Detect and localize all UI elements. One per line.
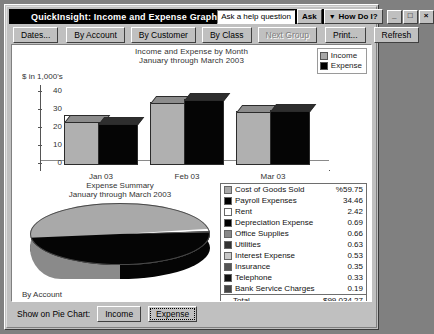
x-tick-label-mar: Mar 03 bbox=[236, 172, 310, 181]
y-tick-0 bbox=[38, 163, 42, 164]
chevron-down-icon: ▼ bbox=[329, 13, 336, 20]
status-bar: Show on Pie Chart: Income Expense bbox=[11, 305, 372, 323]
row-value: 0.63 bbox=[347, 240, 363, 249]
row-swatch-icon bbox=[224, 219, 232, 227]
by-customer-button[interactable]: By Customer bbox=[131, 27, 196, 43]
table-row[interactable]: Office Supplies 0.66 bbox=[221, 228, 366, 239]
window-inner-frame: QuickInsight: Income and Expense Graph A… bbox=[6, 6, 377, 328]
pie-chart-footer: By Account bbox=[22, 290, 62, 299]
legend-item-expense: Expense bbox=[320, 61, 362, 71]
help-question-input[interactable]: Ask a help question bbox=[217, 10, 295, 24]
row-value: 0.53 bbox=[347, 251, 363, 260]
maximize-icon[interactable]: □ bbox=[403, 10, 418, 24]
row-swatch-icon bbox=[224, 252, 232, 260]
row-name: Payroll Expenses bbox=[235, 196, 343, 205]
y-tick-label-0: 0 bbox=[58, 158, 62, 167]
row-name: Depreciation Expense bbox=[235, 218, 347, 227]
title-bar: QuickInsight: Income and Expense Graph A… bbox=[9, 9, 374, 24]
show-expense-button[interactable]: Expense bbox=[148, 306, 197, 322]
y-axis-line bbox=[40, 85, 41, 171]
y-tick-label-40: 40 bbox=[53, 86, 62, 95]
table-row[interactable]: Bank Service Charges 0.19 bbox=[221, 283, 366, 294]
dates-button[interactable]: Dates... bbox=[13, 27, 58, 43]
table-row[interactable]: Payroll Expenses 34.46 bbox=[221, 195, 366, 206]
row-value: 0.33 bbox=[347, 273, 363, 282]
x-tick-label-feb: Feb 03 bbox=[150, 172, 224, 181]
refresh-button[interactable]: Refresh bbox=[374, 27, 420, 43]
show-income-button[interactable]: Income bbox=[97, 306, 141, 322]
y-tick-30 bbox=[38, 109, 42, 110]
expense-breakdown-table: Cost of Goods Sold %59.75 Payroll Expens… bbox=[220, 183, 367, 302]
pie-slice-payroll[interactable] bbox=[30, 203, 210, 265]
row-name: Office Supplies bbox=[235, 229, 347, 238]
quickinsight-window: QuickInsight: Income and Expense Graph A… bbox=[4, 4, 379, 330]
row-swatch-icon bbox=[224, 208, 232, 216]
ask-button[interactable]: Ask bbox=[297, 9, 322, 24]
total-label: Total bbox=[224, 296, 323, 302]
pie-chart-title-line2: January through March 2003 bbox=[12, 190, 228, 199]
y-tick-label-20: 20 bbox=[53, 122, 62, 131]
pie-surface bbox=[30, 203, 210, 265]
show-on-pie-chart-label: Show on Pie Chart: bbox=[17, 309, 90, 319]
row-name: Rent bbox=[235, 207, 347, 216]
by-class-button[interactable]: By Class bbox=[202, 27, 252, 43]
row-value: 2.42 bbox=[347, 207, 363, 216]
title-bar-right-controls: Ask a help question Ask ▼ How Do I? _ □ … bbox=[217, 9, 434, 24]
legend-label-expense: Expense bbox=[331, 61, 362, 71]
total-value: $99,034.27 bbox=[323, 296, 363, 302]
y-tick-label-10: 10 bbox=[53, 140, 62, 149]
by-account-button[interactable]: By Account bbox=[66, 27, 125, 43]
row-name: Cost of Goods Sold bbox=[235, 185, 336, 194]
legend-item-income: Income bbox=[320, 51, 362, 61]
table-row[interactable]: Utilities 0.63 bbox=[221, 239, 366, 250]
x-tick-label-jan: Jan 03 bbox=[64, 172, 138, 181]
legend-swatch-icon-income bbox=[320, 52, 328, 60]
row-value: 0.19 bbox=[347, 284, 363, 293]
how-do-i-button[interactable]: ▼ How Do I? bbox=[324, 9, 383, 24]
row-name: Bank Service Charges bbox=[235, 284, 347, 293]
row-name: Telephone bbox=[235, 273, 347, 282]
table-row[interactable]: Insurance 0.35 bbox=[221, 261, 366, 272]
row-swatch-icon bbox=[224, 274, 232, 282]
graph-client-area: Income and Expense by Month January thro… bbox=[11, 44, 372, 302]
how-do-i-label: How Do I? bbox=[339, 10, 378, 23]
bar-expense-mar[interactable] bbox=[270, 104, 310, 165]
expense-pie-chart[interactable] bbox=[30, 203, 210, 281]
row-value: %59.75 bbox=[336, 185, 363, 194]
bar-chart-plot-area: 40 30 20 10 0 bbox=[40, 85, 330, 171]
table-row[interactable]: Cost of Goods Sold %59.75 bbox=[221, 184, 366, 195]
bar-expense-feb[interactable] bbox=[184, 93, 224, 165]
row-swatch-icon bbox=[224, 241, 232, 249]
row-value: 0.69 bbox=[347, 218, 363, 227]
table-row[interactable]: Interest Expense 0.53 bbox=[221, 250, 366, 261]
table-row[interactable]: Rent 2.42 bbox=[221, 206, 366, 217]
bar-group-jan: Jan 03 bbox=[64, 93, 138, 165]
bar-group-mar: Mar 03 bbox=[236, 93, 310, 165]
y-tick-40 bbox=[38, 91, 42, 92]
row-value: 0.35 bbox=[347, 262, 363, 271]
table-row[interactable]: Telephone 0.33 bbox=[221, 272, 366, 283]
close-icon[interactable]: × bbox=[419, 10, 434, 24]
bar-expense-jan[interactable] bbox=[98, 117, 138, 165]
next-group-button: Next Group bbox=[258, 27, 317, 43]
minimize-icon[interactable]: _ bbox=[387, 10, 402, 24]
window-buttons: _ □ × bbox=[387, 10, 434, 24]
row-value: 0.66 bbox=[347, 229, 363, 238]
pie-chart-title-line1: Expense Summary bbox=[12, 181, 228, 190]
row-swatch-icon bbox=[224, 263, 232, 271]
bar-chart-legend: Income Expense bbox=[317, 48, 367, 74]
expense-summary-section: Expense Summary January through March 20… bbox=[12, 181, 371, 301]
table-row[interactable]: Depreciation Expense 0.69 bbox=[221, 217, 366, 228]
toolbar: Dates... By Account By Customer By Class… bbox=[9, 26, 374, 43]
row-swatch-icon bbox=[224, 230, 232, 238]
table-total-row: Total $99,034.27 bbox=[221, 294, 366, 302]
income-expense-bar-chart: Income and Expense by Month January thro… bbox=[12, 45, 371, 181]
y-tick-label-30: 30 bbox=[53, 104, 62, 113]
row-swatch-icon bbox=[224, 186, 232, 194]
row-value: 34.46 bbox=[343, 196, 363, 205]
row-swatch-icon bbox=[224, 285, 232, 293]
print-button[interactable]: Print... bbox=[325, 27, 366, 43]
legend-swatch-icon-expense bbox=[320, 62, 328, 70]
row-name: Insurance bbox=[235, 262, 347, 271]
legend-label-income: Income bbox=[331, 51, 357, 61]
